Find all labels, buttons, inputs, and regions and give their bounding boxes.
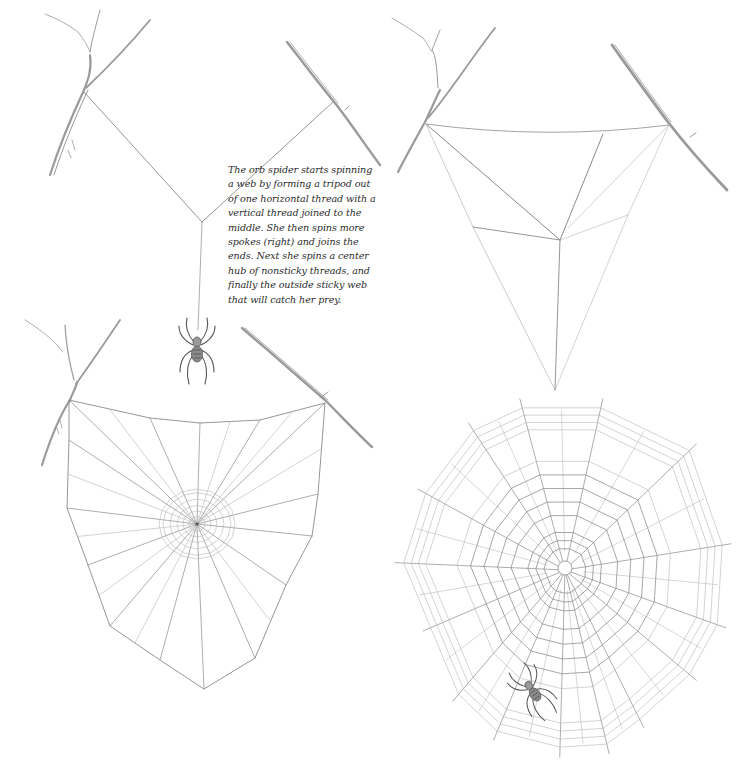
caption-line: of one horizontal thread with a xyxy=(228,192,398,206)
orb-web-illustration xyxy=(0,0,750,769)
twig-panel1-left xyxy=(45,10,150,175)
caption-line: finally the outside sticky web xyxy=(228,278,398,292)
hanging-spider xyxy=(179,318,215,384)
caption: The orb spider starts spinning a web by … xyxy=(228,163,398,307)
caption-line: spokes (right) and joins the xyxy=(228,235,398,249)
twig-panel2-left xyxy=(392,18,495,172)
twig-panel3-right xyxy=(242,328,372,447)
caption-line: that will catch her prey. xyxy=(228,293,398,307)
twig-panel2-right xyxy=(612,45,727,190)
panel-spokes xyxy=(426,124,669,390)
caption-line: middle. She then spins more xyxy=(228,221,398,235)
panel-hub xyxy=(67,400,325,689)
caption-line: ends. Next she spins a center xyxy=(228,249,398,263)
twig-panel3-left xyxy=(25,320,120,465)
caption-line: vertical thread joined to the xyxy=(228,206,398,220)
twig-panel1-right xyxy=(287,42,380,165)
panel-sticky-web xyxy=(395,399,731,757)
caption-line: a web by forming a tripod out xyxy=(228,177,398,191)
caption-line: The orb spider starts spinning xyxy=(228,163,398,177)
caption-line: hub of nonsticky threads, and xyxy=(228,264,398,278)
